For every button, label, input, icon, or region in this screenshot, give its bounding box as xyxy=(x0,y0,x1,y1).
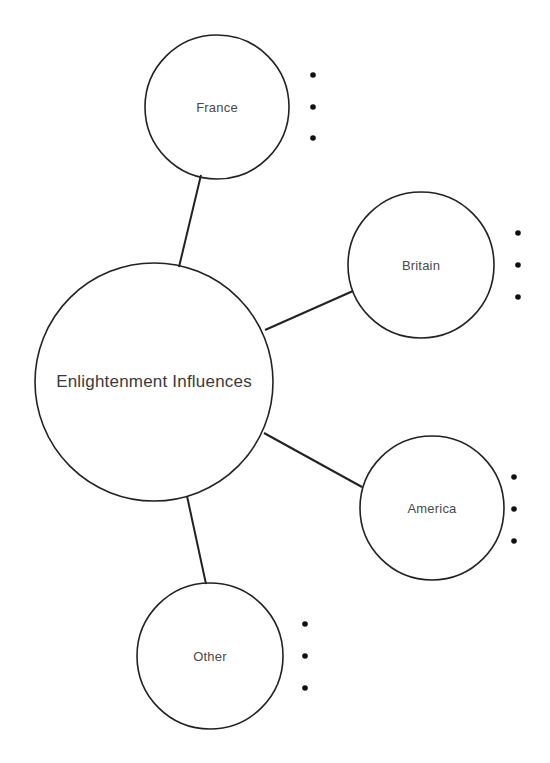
node-label-britain: Britain xyxy=(402,258,440,273)
node-label-france: France xyxy=(196,100,238,115)
center-node-label: Enlightenment Influences xyxy=(56,372,252,392)
bullet-icon-france-3 xyxy=(310,135,316,141)
bullet-icon-america-3 xyxy=(511,538,517,544)
connector-america xyxy=(264,433,362,487)
bullet-icon-britain-3 xyxy=(515,294,521,300)
bullet-icon-other-2 xyxy=(302,653,308,659)
bullet-icon-other-1 xyxy=(302,621,308,627)
bullet-icon-britain-2 xyxy=(515,262,521,268)
bullet-icon-america-1 xyxy=(511,474,517,480)
bullet-icon-france-2 xyxy=(310,104,316,110)
connector-france xyxy=(179,175,201,267)
connector-other xyxy=(187,496,206,584)
bullet-icon-britain-1 xyxy=(515,230,521,236)
node-label-other: Other xyxy=(193,649,227,664)
bullet-icon-america-2 xyxy=(511,506,517,512)
node-label-america: America xyxy=(407,501,456,516)
bullet-icon-france-1 xyxy=(310,72,316,78)
bullet-points xyxy=(302,72,521,691)
connector-britain xyxy=(265,291,353,330)
bullet-icon-other-3 xyxy=(302,685,308,691)
